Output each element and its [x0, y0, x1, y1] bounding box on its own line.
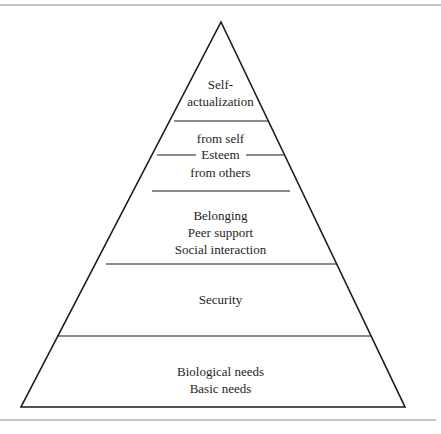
- esteem-from-self: from self: [0, 130, 441, 147]
- level-biological: Biological needs Basic needs: [0, 363, 441, 397]
- level-esteem-top: from self: [0, 130, 441, 147]
- level-label-line: Peer support: [0, 224, 441, 241]
- level-belonging: Belonging Peer support Social interactio…: [0, 207, 441, 258]
- pyramid-diagram: Self- actualization from self Esteem fro…: [0, 0, 441, 434]
- level-label-line: Security: [0, 291, 441, 308]
- level-label-line: Basic needs: [0, 380, 441, 397]
- level-self-actualization: Self- actualization: [0, 76, 441, 110]
- level-esteem-middle: Esteem: [0, 146, 441, 163]
- level-label-line: Self-: [0, 76, 441, 93]
- level-security: Security: [0, 291, 441, 308]
- level-label-line: Biological needs: [0, 363, 441, 380]
- level-label-line: Social interaction: [0, 241, 441, 258]
- esteem-title: Esteem: [198, 146, 242, 163]
- level-label-line: actualization: [0, 93, 441, 110]
- level-esteem-bottom: from others: [0, 164, 441, 181]
- level-label-line: Belonging: [0, 207, 441, 224]
- esteem-from-others: from others: [0, 164, 441, 181]
